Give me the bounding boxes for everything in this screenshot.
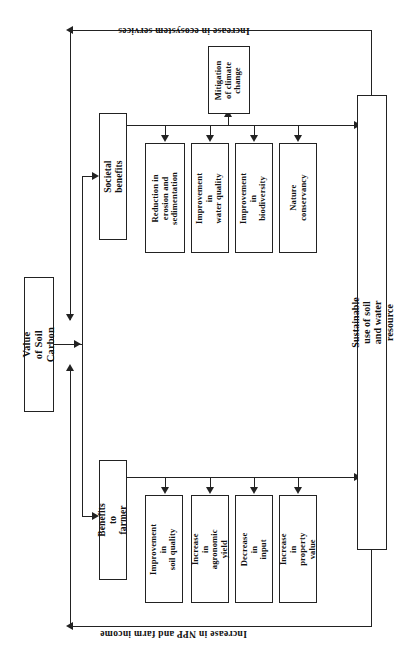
flowchart-canvas: Value of Soil Carbon Societal benefits M… — [0, 0, 412, 662]
node-decrease-in-input[interactable]: Decrease in input — [235, 495, 273, 603]
node-reduction-in-erosion-and-sedimentation-label: Reduction in erosion and sedimentation — [151, 172, 180, 225]
node-societal-benefits-label: Societal benefits — [102, 160, 123, 192]
feedback-into-root-arrow-up — [66, 364, 74, 371]
node-improvement-in-biodiversity-label: Improvement in biodiversity — [240, 172, 269, 223]
node-value-of-soil-carbon-label: Value of Soil Carbon — [21, 327, 56, 362]
feedback-left-lower-spine — [70, 370, 71, 627]
branch-distribution-spine — [82, 176, 83, 516]
node-sustainable-use-of-soil-and-water-resource[interactable]: Sustainable use of soil and water resour… — [357, 95, 387, 550]
node-increase-in-agronomic-yield-label: Increase in agronomic yield — [191, 529, 230, 569]
node-mitigation-of-climate-change[interactable]: Mitigation of climate change — [208, 46, 250, 114]
link-to-societal-arrowhead — [92, 172, 99, 180]
node-reduction-in-erosion-and-sedimentation[interactable]: Reduction in erosion and sedimentation — [145, 143, 185, 253]
farmer-bus-line — [127, 477, 361, 478]
feedback-top-right-riser — [371, 30, 372, 96]
root-output-arrowhead — [74, 340, 81, 348]
caption-increase-in-ecosystem-services: Increase in ecosystem services — [118, 26, 250, 37]
drop-to-water-arrowhead — [206, 135, 214, 142]
node-societal-benefits[interactable]: Societal benefits — [99, 113, 127, 240]
drop-to-decrease-in-input-arrowhead — [250, 487, 258, 494]
node-increase-in-property-value[interactable]: Increase in property value — [279, 495, 317, 603]
node-benefits-to-farmer[interactable]: Benefits to farmer — [99, 460, 127, 580]
caption-increase-in-npp-and-farm-income: Increase in NPP and farm income — [100, 629, 247, 640]
drop-to-agronomic-yield-arrowhead — [206, 487, 214, 494]
node-value-of-soil-carbon[interactable]: Value of Soil Carbon — [24, 277, 54, 412]
node-increase-in-agronomic-yield[interactable]: Increase in agronomic yield — [191, 495, 229, 603]
node-improvement-in-water-quality[interactable]: Improvement in water quality — [191, 143, 229, 253]
node-improvement-in-soil-quality[interactable]: Improvement in soil quality — [145, 495, 183, 603]
feedback-bottom-right-riser — [371, 549, 372, 627]
node-improvement-in-biodiversity[interactable]: Improvement in biodiversity — [235, 143, 273, 253]
feedback-bottom-line — [70, 626, 372, 627]
drop-to-erosion-arrowhead — [161, 135, 169, 142]
node-nature-conservancy-label: Nature conservancy — [288, 175, 307, 221]
node-improvement-in-soil-quality-label: Improvement in soil quality — [150, 523, 179, 574]
node-benefits-to-farmer-label: Benefits to farmer — [97, 503, 129, 537]
drop-to-biodiversity-arrowhead — [250, 135, 258, 142]
drop-to-nature-arrowhead — [294, 135, 302, 142]
societal-bus-line — [127, 125, 361, 126]
node-increase-in-property-value-label: Increase in property value — [279, 531, 318, 567]
node-decrease-in-input-label: Decrease in input — [240, 531, 269, 567]
node-improvement-in-water-quality-label: Improvement in water quality — [196, 172, 225, 223]
feedback-left-upper-spine — [70, 30, 71, 320]
node-mitigation-of-climate-change-label: Mitigation of climate change — [215, 60, 244, 100]
node-sustainable-use-of-soil-and-water-resource-label: Sustainable use of soil and water resour… — [350, 297, 395, 348]
drop-to-property-value-arrowhead — [294, 487, 302, 494]
feedback-into-root-arrow-down — [66, 314, 74, 321]
node-nature-conservancy[interactable]: Nature conservancy — [279, 143, 317, 253]
drop-to-soil-quality-arrowhead — [161, 487, 169, 494]
